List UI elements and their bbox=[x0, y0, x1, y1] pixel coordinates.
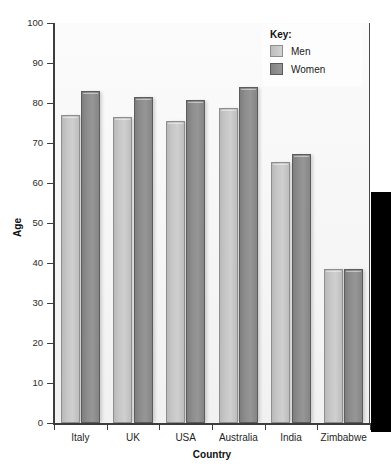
y-tick-label-100: 100 bbox=[0, 17, 43, 28]
bar-highlight bbox=[168, 123, 183, 422]
x-tick-4 bbox=[265, 424, 266, 430]
bar-highlight bbox=[326, 271, 341, 422]
bar-chart-figure: 0102030405060708090100 ItalyUKUSAAustral… bbox=[0, 0, 391, 470]
bar-australia-women bbox=[239, 87, 258, 423]
bar-italy-men bbox=[61, 115, 80, 423]
y-tick-0 bbox=[47, 423, 54, 424]
x-axis-label-zimbabwe: Zimbabwe bbox=[299, 432, 389, 443]
legend-title: Key: bbox=[270, 29, 356, 40]
y-tick-50 bbox=[47, 223, 54, 224]
bar-india-women bbox=[292, 154, 311, 423]
women-swatch-icon bbox=[270, 63, 283, 75]
bar-highlight bbox=[346, 271, 361, 422]
y-tick-label-30: 30 bbox=[0, 297, 43, 308]
bar-highlight bbox=[136, 99, 151, 422]
x-tick-5 bbox=[317, 424, 318, 430]
legend-item-women: Women bbox=[270, 63, 356, 75]
y-tick-label-70: 70 bbox=[0, 137, 43, 148]
y-tick-80 bbox=[47, 103, 54, 104]
y-tick-100 bbox=[47, 23, 54, 24]
bar-highlight bbox=[241, 89, 256, 422]
y-tick-label-20: 20 bbox=[0, 337, 43, 348]
y-axis-title: Age bbox=[12, 198, 23, 258]
bar-highlight bbox=[188, 102, 203, 422]
bar-highlight bbox=[273, 164, 288, 422]
x-tick-1 bbox=[107, 424, 108, 430]
legend-item-men: Men bbox=[270, 45, 356, 57]
x-tick-0 bbox=[54, 424, 55, 430]
bar-usa-women bbox=[186, 100, 205, 423]
legend-label-women: Women bbox=[291, 64, 325, 75]
x-tick-3 bbox=[212, 424, 213, 430]
bar-highlight bbox=[63, 117, 78, 422]
bar-zimbabwe-men bbox=[324, 269, 343, 423]
y-tick-label-40: 40 bbox=[0, 257, 43, 268]
bar-zimbabwe-women bbox=[344, 269, 363, 423]
bar-uk-women bbox=[134, 97, 153, 423]
bar-australia-men bbox=[219, 108, 238, 423]
bar-italy-women bbox=[81, 91, 100, 423]
y-tick-40 bbox=[47, 263, 54, 264]
legend: Key: Men Women bbox=[262, 24, 362, 86]
bar-highlight bbox=[294, 156, 309, 422]
y-tick-30 bbox=[47, 303, 54, 304]
y-tick-10 bbox=[47, 383, 54, 384]
bar-india-men bbox=[271, 162, 290, 423]
y-tick-90 bbox=[47, 63, 54, 64]
bar-usa-men bbox=[166, 121, 185, 423]
y-tick-60 bbox=[47, 183, 54, 184]
x-tick-2 bbox=[159, 424, 160, 430]
y-tick-20 bbox=[47, 343, 54, 344]
y-tick-label-80: 80 bbox=[0, 97, 43, 108]
y-tick-label-90: 90 bbox=[0, 57, 43, 68]
bar-highlight bbox=[115, 119, 130, 422]
bar-highlight bbox=[221, 110, 236, 422]
y-tick-label-0: 0 bbox=[0, 417, 43, 428]
y-tick-label-60: 60 bbox=[0, 177, 43, 188]
occluding-black-panel bbox=[371, 192, 391, 432]
bar-uk-men bbox=[113, 117, 132, 423]
y-tick-70 bbox=[47, 143, 54, 144]
chart-title bbox=[120, 0, 320, 9]
y-tick-label-10: 10 bbox=[0, 377, 43, 388]
legend-label-men: Men bbox=[291, 46, 310, 57]
x-axis-title: Country bbox=[54, 449, 370, 460]
bar-highlight bbox=[83, 93, 98, 422]
men-swatch-icon bbox=[270, 45, 283, 57]
